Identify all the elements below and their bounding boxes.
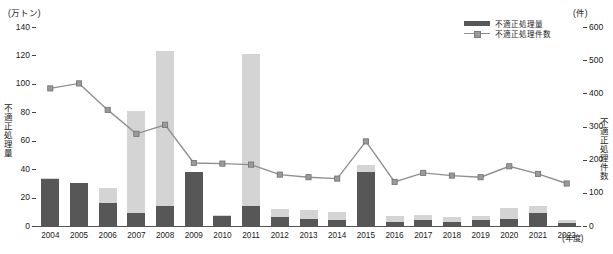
- x-axis-tick-label: 2015: [351, 231, 381, 240]
- x-axis-tick-label: 2008: [150, 231, 180, 240]
- line-data-point-marker: [392, 179, 397, 184]
- line-data-point-marker: [76, 81, 81, 86]
- x-axis-tick-label: 2013: [294, 231, 324, 240]
- line-data-point-marker: [535, 171, 540, 176]
- x-axis-tick-label: 2018: [437, 231, 467, 240]
- x-axis-tick-label: 2004: [35, 231, 65, 240]
- x-axis-tick-label: 2020: [494, 231, 524, 240]
- line-data-point-marker: [335, 176, 340, 181]
- line-data-point-marker: [564, 181, 569, 186]
- x-axis-tick-label: 2006: [93, 231, 123, 240]
- line-data-point-marker: [421, 170, 426, 175]
- line-data-point-marker: [249, 162, 254, 167]
- x-axis-tick-label: 2021: [523, 231, 553, 240]
- line-data-point-marker: [220, 161, 225, 166]
- x-axis-tick-label: 2014: [322, 231, 352, 240]
- x-axis-tick-label: 2011: [236, 231, 266, 240]
- x-axis-tick-label: 2005: [64, 231, 94, 240]
- legend-bar-swatch-icon: [464, 21, 490, 26]
- chart-container: (万トン) (件) 不適正処理量 不適正処理件数 020406080100120…: [0, 0, 613, 254]
- line-series-path: [50, 83, 566, 183]
- x-axis-tick-label: 2012: [265, 231, 295, 240]
- x-axis-tick-label: 2019: [466, 231, 496, 240]
- line-data-point-marker: [507, 164, 512, 169]
- x-axis-unit: (年度): [562, 231, 583, 243]
- line-data-point-marker: [163, 122, 168, 127]
- line-data-point-marker: [449, 173, 454, 178]
- legend-line-swatch-icon: [464, 30, 490, 37]
- x-axis-line: [36, 226, 581, 227]
- line-data-point-marker: [134, 131, 139, 136]
- line-data-point-marker: [48, 86, 53, 91]
- line-data-point-marker: [191, 160, 196, 165]
- line-data-point-marker: [277, 172, 282, 177]
- line-data-point-marker: [306, 175, 311, 180]
- x-axis-tick-label: 2007: [121, 231, 151, 240]
- x-axis-tick-label: 2009: [179, 231, 209, 240]
- line-data-point-marker: [105, 107, 110, 112]
- x-axis-tick-label: 2010: [207, 231, 237, 240]
- line-data-point-marker: [363, 139, 368, 144]
- legend-item-line-label: 不適正処理件数: [495, 28, 551, 39]
- x-axis-tick-label: 2016: [380, 231, 410, 240]
- line-data-point-marker: [478, 175, 483, 180]
- x-axis-tick-label: 2017: [408, 231, 438, 240]
- legend-item-line: 不適正処理件数: [464, 28, 551, 39]
